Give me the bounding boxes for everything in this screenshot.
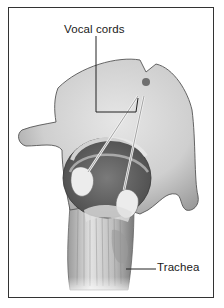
label-trachea: Trachea	[157, 261, 199, 273]
label-vocal-cords: Vocal cords	[64, 23, 125, 35]
